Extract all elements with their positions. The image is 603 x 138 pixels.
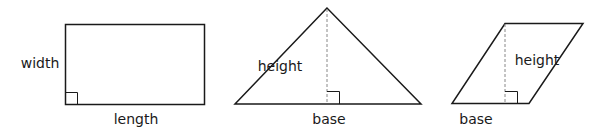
rectangle-width-label: width (21, 55, 60, 71)
triangle-figure: height base (235, 8, 421, 127)
rectangle-length-label: length (114, 111, 159, 127)
right-angle-marker (327, 92, 340, 105)
parallelogram-figure: height base (452, 24, 583, 128)
triangle-base-label: base (312, 111, 345, 127)
triangle-outline (235, 8, 421, 104)
right-angle-marker (66, 93, 78, 105)
parallelogram-height-label: height (515, 52, 560, 68)
geometry-diagram: width length height base height base (0, 0, 603, 138)
rectangle-outline (66, 25, 205, 105)
parallelogram-base-label: base (459, 111, 492, 127)
right-angle-marker (505, 92, 518, 104)
rectangle-figure: width length (21, 25, 205, 128)
triangle-height-label: height (258, 58, 303, 74)
